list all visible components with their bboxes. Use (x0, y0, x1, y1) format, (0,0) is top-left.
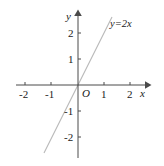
coordinate-plane-figure: -2 -1 1 2 2 1 -1 -2 O x y y=2x (0, 0, 164, 166)
y-axis-arrow-icon (74, 10, 82, 17)
y-tick-label--2: -2 (64, 132, 73, 143)
x-tick-label--2: -2 (19, 89, 28, 100)
x-tick-label-2: 2 (127, 89, 133, 100)
y-axis-group (74, 10, 82, 159)
x-axis-arrow-icon (145, 81, 152, 89)
x-tick-label--1: -1 (45, 89, 54, 100)
plot-canvas (0, 0, 164, 166)
x-axis-label: x (140, 88, 145, 99)
origin-label: O (82, 88, 90, 99)
y-axis-label: y (66, 11, 71, 22)
y-tick-label-2: 2 (68, 28, 74, 39)
x-tick-label-1: 1 (101, 89, 107, 100)
y-tick-label--1: -1 (64, 106, 73, 117)
y-tick-label-1: 1 (68, 54, 74, 65)
function-equation-label: y=2x (110, 19, 132, 30)
